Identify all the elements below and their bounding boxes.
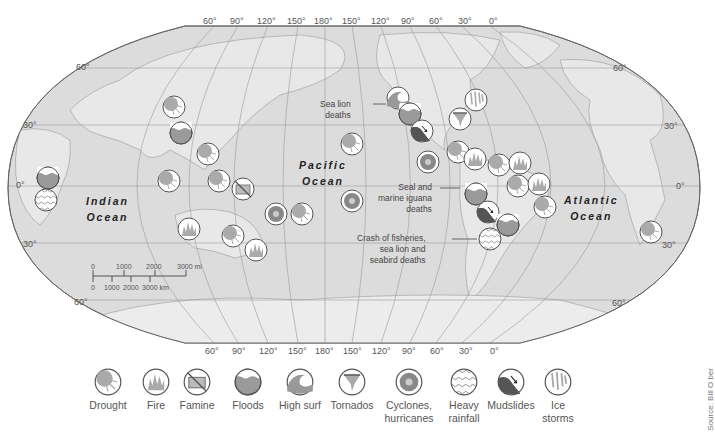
- drought-marker-icon: [163, 96, 185, 118]
- annotation-fisheries-crash: Crash of fisheries, sea lion and seabird…: [357, 233, 426, 266]
- fire-marker-icon: [464, 148, 486, 170]
- lat-label: 0°: [16, 181, 25, 190]
- scale-mi-0: 0: [91, 263, 95, 270]
- drought-marker-icon: [534, 196, 556, 218]
- drought-marker-icon: [291, 203, 313, 225]
- scale-mi-2000: 2000: [146, 263, 162, 270]
- famine-marker-icon: [232, 178, 254, 200]
- ice-storm-icon: [544, 368, 572, 396]
- lat-label: 30°: [23, 240, 37, 249]
- scale-km-3000: 3000 km: [142, 284, 169, 291]
- lat-label: 60°: [612, 299, 626, 308]
- lon-label: 180°: [314, 17, 333, 26]
- cyclones-marker-icon: [265, 203, 287, 225]
- lon-label: 150°: [287, 17, 306, 26]
- fire-marker-icon: [528, 173, 550, 195]
- drought-marker-icon: [158, 170, 180, 192]
- lon-label: 120°: [371, 17, 390, 26]
- lon-label: 60°: [203, 17, 217, 26]
- floods-marker-icon: [37, 167, 59, 189]
- mudslides-marker-icon: [477, 201, 499, 223]
- lon-label: 60°: [429, 17, 443, 26]
- lat-label: 60°: [74, 298, 88, 307]
- ice-storms-marker-icon: [465, 89, 487, 111]
- lat-label: 60°: [613, 64, 627, 73]
- heavy-rainfall-icon: [450, 368, 478, 396]
- lat-label: 30°: [664, 122, 678, 131]
- tornados-marker-icon: [449, 108, 471, 130]
- lon-label: 30°: [459, 347, 473, 356]
- legend-item-ice-storms: Ice storms: [522, 368, 594, 424]
- tornado-icon: [338, 368, 366, 396]
- lon-label: 150°: [342, 17, 361, 26]
- scale-mi-3000: 3000 mi: [177, 263, 202, 270]
- floods-icon: [234, 368, 262, 396]
- ocean-label-pacific: Pacific Ocean: [299, 157, 347, 190]
- lat-label: 30°: [23, 121, 37, 130]
- lon-label: 60°: [205, 347, 219, 356]
- lon-label: 90°: [401, 17, 415, 26]
- drought-marker-icon: [488, 154, 510, 176]
- lon-label: 120°: [257, 17, 276, 26]
- heavy-rainfall-marker-icon: [479, 228, 501, 250]
- lon-label: 180°: [315, 347, 334, 356]
- cyclones-marker-icon: [341, 190, 363, 212]
- lon-label: 0°: [490, 347, 499, 356]
- cyclones-marker-icon: [417, 151, 439, 173]
- floods-marker-icon: [170, 122, 192, 144]
- mudslides-marker-icon: [411, 120, 433, 142]
- high-surf-icon: [286, 368, 314, 396]
- drought-marker-icon: [197, 143, 219, 165]
- lat-label: 0°: [676, 182, 685, 191]
- lon-label: 90°: [230, 17, 244, 26]
- ocean-label-atlantic: Atlantic Ocean: [564, 192, 619, 225]
- floods-marker-icon: [497, 214, 519, 236]
- lon-label: 120°: [259, 347, 278, 356]
- lat-label: 60°: [76, 63, 90, 72]
- legend-label: Ice storms: [522, 399, 594, 424]
- fire-marker-icon: [245, 239, 267, 261]
- lon-label: 90°: [402, 347, 416, 356]
- lon-label: 90°: [232, 347, 246, 356]
- drought-icon: [94, 368, 122, 396]
- drought-marker-icon: [222, 225, 244, 247]
- drought-marker-icon: [341, 133, 363, 155]
- lon-label: 30°: [458, 17, 472, 26]
- lon-label: 150°: [288, 347, 307, 356]
- scale-km-1000: 1000: [104, 284, 120, 291]
- scale-mi-1000: 1000: [116, 263, 132, 270]
- drought-marker-icon: [640, 221, 662, 243]
- lat-label: 30°: [662, 241, 676, 250]
- fire-marker-icon: [509, 152, 531, 174]
- drought-marker-icon: [208, 170, 230, 192]
- lon-label: 0°: [489, 17, 498, 26]
- annotation-sea-lion-deaths: Sea lion deaths: [320, 99, 351, 121]
- annotation-seal-iguana-deaths: Seal and marine iguana deaths: [378, 182, 432, 215]
- heavy-rainfall-marker-icon: [35, 189, 57, 211]
- source-credit: Source: Bill O ber: [706, 368, 715, 431]
- cyclone-icon: [395, 368, 423, 396]
- lon-label: 120°: [372, 347, 391, 356]
- scale-km-0: 0: [91, 284, 95, 291]
- drought-marker-icon: [507, 175, 529, 197]
- lon-label: 60°: [430, 347, 444, 356]
- scale-km-2000: 2000: [123, 284, 139, 291]
- ocean-label-indian: Indian Ocean: [86, 193, 129, 226]
- lon-label: 150°: [343, 347, 362, 356]
- mudslide-icon: [497, 368, 525, 396]
- fire-marker-icon: [178, 218, 200, 240]
- famine-icon: [183, 368, 211, 396]
